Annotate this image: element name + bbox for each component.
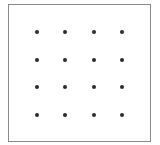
- grid-dot: [63, 30, 67, 34]
- grid-dot: [35, 58, 39, 62]
- grid-dot: [120, 85, 124, 89]
- grid-dot: [120, 113, 124, 117]
- grid-dot: [63, 85, 67, 89]
- grid-dot: [92, 113, 96, 117]
- grid-dot: [92, 58, 96, 62]
- grid-dot: [63, 113, 67, 117]
- grid-dot: [92, 85, 96, 89]
- grid-dot: [92, 30, 96, 34]
- square-border-frame: [8, 4, 151, 142]
- grid-dot: [63, 58, 67, 62]
- diagram-canvas: [0, 0, 160, 145]
- grid-dot: [120, 30, 124, 34]
- grid-dot: [120, 58, 124, 62]
- grid-dot: [35, 113, 39, 117]
- grid-dot: [35, 85, 39, 89]
- grid-dot: [35, 30, 39, 34]
